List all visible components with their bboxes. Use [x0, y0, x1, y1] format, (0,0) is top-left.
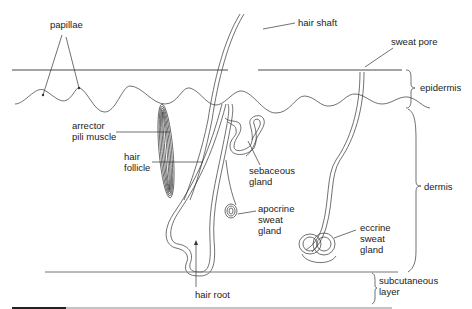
dermis-brace — [408, 109, 421, 272]
arrector-pili-muscle — [155, 104, 177, 199]
label-hair-follicle-2: follicle — [124, 162, 150, 173]
label-sebaceous-2: gland — [249, 176, 272, 187]
label-subcutaneous-2: layer — [379, 286, 400, 297]
label-papillae: papillae — [50, 19, 83, 30]
hair-follicle — [171, 104, 229, 272]
papillae-pointer — [43, 35, 79, 95]
hair-shaft — [184, 14, 244, 200]
sweat-pore-pointer — [365, 48, 393, 67]
label-dermis: dermis — [424, 181, 453, 192]
subcutaneous-brace — [372, 273, 377, 304]
label-sweat-pore: sweat pore — [391, 36, 437, 47]
papillae-dot — [42, 94, 44, 96]
label-hair-follicle-1: hair — [124, 151, 140, 162]
sebaceous-gland — [225, 116, 264, 156]
label-hair-shaft: hair shaft — [298, 17, 337, 28]
label-arrector-1: arrector — [72, 120, 105, 131]
label-eccrine-2: sweat — [360, 233, 385, 244]
hair-shaft-pointer — [263, 23, 295, 29]
label-epidermis: epidermis — [420, 82, 461, 93]
papillae-dot — [78, 87, 80, 89]
label-apocrine-3: gland — [258, 225, 281, 236]
hair-root-arrowhead — [194, 240, 198, 245]
eccrine-pointer — [334, 230, 356, 238]
papillae-wave — [15, 86, 430, 113]
skin-diagram: papillae hair shaft hair follicle arrect… — [0, 0, 472, 309]
label-apocrine-2: sweat — [258, 214, 283, 225]
epidermis-brace — [406, 70, 415, 108]
label-arrector-2: pili muscle — [72, 131, 116, 142]
label-hair-root: hair root — [195, 289, 230, 300]
hair-follicle — [166, 104, 233, 276]
label-eccrine-3: gland — [360, 244, 383, 255]
apocrine-sweat-gland — [225, 160, 237, 218]
apocrine-pointer — [238, 211, 256, 214]
label-apocrine-1: apocrine — [258, 203, 294, 214]
sweat-duct — [306, 72, 364, 252]
label-sebaceous-1: sebaceous — [249, 165, 295, 176]
label-subcutaneous-1: subcutaneous — [379, 275, 438, 286]
label-eccrine-1: eccrine — [360, 222, 391, 233]
